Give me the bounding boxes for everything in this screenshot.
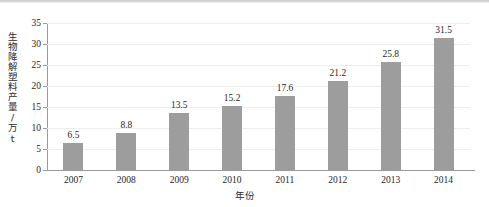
gridline bbox=[47, 23, 470, 24]
bar-value-label: 6.5 bbox=[51, 130, 95, 140]
y-axis-tick-mark bbox=[43, 170, 47, 171]
bar bbox=[381, 62, 401, 170]
y-axis-tick-label: 30 bbox=[15, 39, 41, 49]
y-axis-tick-label: 15 bbox=[15, 102, 41, 112]
y-axis-tick-mark bbox=[43, 128, 47, 129]
y-axis-tick-label: 35 bbox=[15, 18, 41, 28]
page-scan-artifact-band bbox=[0, 0, 489, 3]
x-axis-tick-label: 2008 bbox=[102, 175, 150, 185]
bar-value-label: 31.5 bbox=[422, 25, 466, 35]
x-axis-tick-label: 2011 bbox=[261, 175, 309, 185]
x-axis-tick-label: 2014 bbox=[420, 175, 468, 185]
x-axis-tick-label: 2009 bbox=[155, 175, 203, 185]
y-axis-tick-mark bbox=[43, 65, 47, 66]
y-axis-tick-label: 5 bbox=[15, 144, 41, 154]
bar bbox=[222, 106, 242, 170]
y-axis-tick-label: 25 bbox=[15, 60, 41, 70]
gridline bbox=[47, 86, 470, 87]
bar bbox=[328, 81, 348, 170]
bar bbox=[116, 133, 136, 170]
plot-area bbox=[47, 23, 470, 170]
gridline bbox=[47, 44, 470, 45]
bar bbox=[275, 96, 295, 170]
x-axis-tick-label: 2010 bbox=[208, 175, 256, 185]
bar bbox=[434, 38, 454, 170]
gridline bbox=[47, 107, 470, 108]
bar-value-label: 17.6 bbox=[263, 83, 307, 93]
x-axis-tick-label: 2007 bbox=[49, 175, 97, 185]
y-axis-tick-mark bbox=[43, 44, 47, 45]
bar-value-label: 25.8 bbox=[369, 49, 413, 59]
x-axis-title: 年份 bbox=[0, 188, 489, 202]
y-axis-tick-mark bbox=[43, 107, 47, 108]
bar bbox=[63, 143, 83, 170]
y-axis-tick-label: 20 bbox=[15, 81, 41, 91]
y-axis-tick-label: 10 bbox=[15, 123, 41, 133]
bar-value-label: 8.8 bbox=[104, 120, 148, 130]
y-axis-tick-mark bbox=[43, 23, 47, 24]
gridline bbox=[47, 149, 470, 150]
x-axis-tick-label: 2012 bbox=[314, 175, 362, 185]
y-axis-tick-labels: 05101520253035 bbox=[11, 0, 41, 207]
bar-chart-figure: 生物降解塑料产量/万t 05101520253035 年份 6.520078.8… bbox=[0, 0, 489, 207]
gridline bbox=[47, 65, 470, 66]
y-axis-tick-mark bbox=[43, 86, 47, 87]
y-axis-tick-label: 0 bbox=[15, 165, 41, 175]
bar-value-label: 21.2 bbox=[316, 68, 360, 78]
x-axis-line bbox=[47, 170, 475, 171]
bar-value-label: 15.2 bbox=[210, 93, 254, 103]
bar bbox=[169, 113, 189, 170]
bar-value-label: 13.5 bbox=[157, 100, 201, 110]
y-axis-tick-mark bbox=[43, 149, 47, 150]
x-axis-tick-label: 2013 bbox=[367, 175, 415, 185]
